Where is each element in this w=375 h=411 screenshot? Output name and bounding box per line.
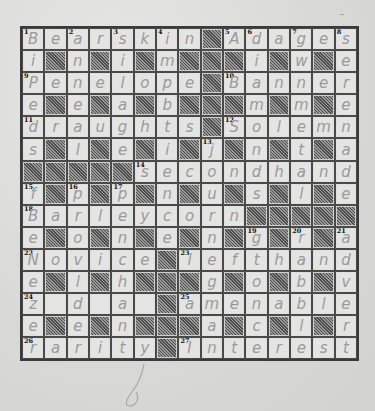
grid-cell[interactable]: 21a bbox=[335, 227, 357, 249]
grid-cell[interactable] bbox=[134, 293, 156, 315]
grid-cell[interactable]: 23l bbox=[178, 249, 200, 271]
grid-cell[interactable]: a bbox=[44, 205, 66, 227]
grid-cell[interactable]: e bbox=[111, 138, 133, 160]
grid-cell[interactable]: b bbox=[290, 293, 312, 315]
grid-cell[interactable]: o bbox=[201, 161, 223, 183]
grid-cell[interactable]: u bbox=[89, 116, 111, 138]
grid-cell[interactable]: c bbox=[245, 315, 267, 337]
grid-cell[interactable]: n bbox=[201, 227, 223, 249]
grid-cell[interactable]: 2a bbox=[67, 28, 89, 50]
grid-cell[interactable]: a bbox=[268, 293, 290, 315]
grid-cell[interactable]: 20r bbox=[290, 227, 312, 249]
grid-cell[interactable]: g bbox=[111, 116, 133, 138]
grid-cell[interactable]: 15f bbox=[22, 183, 44, 205]
grid-cell[interactable]: g bbox=[201, 271, 223, 293]
grid-cell[interactable]: e bbox=[22, 271, 44, 293]
grid-cell[interactable]: y bbox=[134, 337, 156, 359]
grid-cell[interactable]: h bbox=[268, 161, 290, 183]
grid-cell[interactable]: s bbox=[245, 183, 267, 205]
grid-cell[interactable]: a bbox=[268, 28, 290, 50]
grid-cell[interactable]: 16p bbox=[67, 183, 89, 205]
grid-cell[interactable]: 6d bbox=[245, 28, 267, 50]
grid-cell[interactable]: i bbox=[111, 50, 133, 72]
grid-cell[interactable]: o bbox=[178, 205, 200, 227]
grid-cell[interactable]: 12S bbox=[223, 116, 245, 138]
grid-cell[interactable]: 26r bbox=[22, 337, 44, 359]
grid-cell[interactable]: k bbox=[134, 28, 156, 50]
grid-cell[interactable]: w bbox=[290, 50, 312, 72]
grid-cell[interactable]: n bbox=[290, 72, 312, 94]
grid-cell[interactable]: h bbox=[268, 249, 290, 271]
grid-cell[interactable]: n bbox=[111, 227, 133, 249]
grid-cell[interactable]: e bbox=[335, 94, 357, 116]
grid-cell[interactable]: 13j bbox=[201, 138, 223, 160]
grid-cell[interactable]: m bbox=[156, 50, 178, 72]
grid-cell[interactable]: o bbox=[245, 116, 267, 138]
grid-cell[interactable]: o bbox=[245, 271, 267, 293]
grid-cell[interactable]: n bbox=[67, 72, 89, 94]
grid-cell[interactable]: 24z bbox=[22, 293, 44, 315]
grid-cell[interactable]: 25a bbox=[178, 293, 200, 315]
grid-cell[interactable]: e bbox=[67, 94, 89, 116]
grid-cell[interactable]: 9P bbox=[22, 72, 44, 94]
grid-cell[interactable]: n bbox=[335, 116, 357, 138]
grid-cell[interactable]: n bbox=[178, 28, 200, 50]
grid-cell[interactable]: d bbox=[67, 293, 89, 315]
grid-cell[interactable]: e bbox=[67, 315, 89, 337]
grid-cell[interactable]: a bbox=[44, 337, 66, 359]
grid-cell[interactable]: a bbox=[67, 116, 89, 138]
grid-cell[interactable]: r bbox=[67, 337, 89, 359]
grid-cell[interactable]: 11d bbox=[22, 116, 44, 138]
grid-cell[interactable]: 4i bbox=[156, 28, 178, 50]
grid-cell[interactable]: m bbox=[312, 116, 334, 138]
grid-cell[interactable]: e bbox=[22, 94, 44, 116]
grid-cell[interactable]: h bbox=[134, 116, 156, 138]
grid-cell[interactable]: e bbox=[44, 72, 66, 94]
grid-cell[interactable]: a bbox=[335, 138, 357, 160]
grid-cell[interactable]: e bbox=[156, 161, 178, 183]
grid-cell[interactable]: n bbox=[67, 50, 89, 72]
grid-cell[interactable]: 3s bbox=[111, 28, 133, 50]
grid-cell[interactable]: 18B bbox=[22, 205, 44, 227]
grid-cell[interactable]: v bbox=[67, 249, 89, 271]
grid-cell[interactable]: e bbox=[312, 72, 334, 94]
grid-cell[interactable]: s bbox=[22, 138, 44, 160]
grid-cell[interactable]: n bbox=[223, 161, 245, 183]
grid-cell[interactable]: e bbox=[201, 249, 223, 271]
grid-cell[interactable]: e bbox=[335, 293, 357, 315]
grid-cell[interactable]: e bbox=[223, 293, 245, 315]
grid-cell[interactable]: c bbox=[111, 249, 133, 271]
grid-cell[interactable]: 22N bbox=[22, 249, 44, 271]
grid-cell[interactable]: 8s bbox=[335, 28, 357, 50]
grid-cell[interactable]: e bbox=[178, 72, 200, 94]
grid-cell[interactable]: n bbox=[111, 315, 133, 337]
grid-cell[interactable]: l bbox=[89, 205, 111, 227]
grid-cell[interactable]: e bbox=[111, 205, 133, 227]
grid-cell[interactable]: r bbox=[67, 205, 89, 227]
grid-cell[interactable]: i bbox=[22, 50, 44, 72]
grid-cell[interactable]: t bbox=[290, 138, 312, 160]
grid-cell[interactable]: 5A bbox=[223, 28, 245, 50]
grid-cell[interactable]: c bbox=[178, 161, 200, 183]
grid-cell[interactable]: e bbox=[44, 28, 66, 50]
grid-cell[interactable]: f bbox=[223, 249, 245, 271]
grid-cell[interactable]: a bbox=[245, 72, 267, 94]
grid-cell[interactable]: i bbox=[245, 50, 267, 72]
grid-cell[interactable]: t bbox=[111, 337, 133, 359]
grid-cell[interactable]: y bbox=[134, 205, 156, 227]
grid-cell[interactable]: l bbox=[290, 183, 312, 205]
grid-cell[interactable]: n bbox=[245, 293, 267, 315]
grid-cell[interactable]: b bbox=[290, 271, 312, 293]
grid-cell[interactable]: h bbox=[111, 271, 133, 293]
grid-cell[interactable]: e bbox=[22, 315, 44, 337]
grid-cell[interactable]: r bbox=[201, 205, 223, 227]
grid-cell[interactable]: e bbox=[245, 337, 267, 359]
grid-cell[interactable]: 7g bbox=[290, 28, 312, 50]
grid-cell[interactable]: e bbox=[335, 50, 357, 72]
grid-cell[interactable]: b bbox=[156, 94, 178, 116]
grid-cell[interactable]: i bbox=[89, 337, 111, 359]
grid-cell[interactable]: a bbox=[290, 161, 312, 183]
grid-cell[interactable]: r bbox=[268, 337, 290, 359]
grid-cell[interactable]: e bbox=[335, 183, 357, 205]
grid-cell[interactable]: t bbox=[245, 249, 267, 271]
